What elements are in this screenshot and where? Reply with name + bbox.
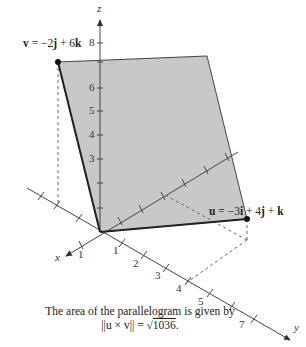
diagram-canvas xyxy=(0,0,306,347)
y-tick-3: 3 xyxy=(155,270,161,281)
vector-v-label: v = −2j + 6k xyxy=(23,37,81,49)
z-tick-4: 4 xyxy=(89,129,95,140)
parallelogram-diagram: z x y 8 6 5 4 3 1 1 2 3 4 5 7 v = −2j + … xyxy=(0,0,306,347)
y-axis-label: y xyxy=(294,322,299,333)
z-axis-label: z xyxy=(97,3,101,14)
y-tick-2: 2 xyxy=(133,258,139,269)
z-tick-6: 6 xyxy=(89,82,95,93)
x-tick-1: 1 xyxy=(78,249,84,260)
vector-u-label: u = −3i + 4j + k xyxy=(209,205,284,217)
z-tick-3: 3 xyxy=(89,153,95,164)
area-caption: The area of the parallelogram is given b… xyxy=(40,304,240,332)
caption-line-1: The area of the parallelogram is given b… xyxy=(40,304,240,318)
vector-v-endpoint xyxy=(55,59,61,65)
y-tick-1: 1 xyxy=(113,245,119,256)
x-axis-label: x xyxy=(55,252,60,263)
z-tick-8: 8 xyxy=(89,37,95,48)
z-tick-5: 5 xyxy=(89,105,95,116)
y-tick-4: 4 xyxy=(176,283,182,294)
caption-line-2: ||u × v|| = √1036. xyxy=(40,318,240,332)
